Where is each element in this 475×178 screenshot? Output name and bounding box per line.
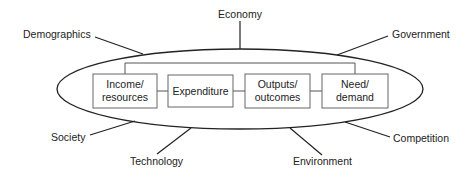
label-economy: Economy xyxy=(218,8,263,20)
label-competition: Competition xyxy=(393,132,449,144)
leader-society xyxy=(90,121,135,135)
box-need-line1: Need/ xyxy=(341,78,369,90)
box-need-demand: Need/ demand xyxy=(322,74,388,108)
label-society: Society xyxy=(51,131,86,143)
label-environment: Environment xyxy=(293,155,352,167)
box-income-line2: resources xyxy=(102,91,148,103)
box-expenditure: Expenditure xyxy=(168,75,233,107)
label-technology: Technology xyxy=(130,155,184,167)
box-need-line2: demand xyxy=(336,91,374,103)
label-government: Government xyxy=(392,28,450,40)
leader-technology xyxy=(157,128,191,154)
feedback-connector xyxy=(125,63,355,74)
leader-environment xyxy=(290,128,322,155)
box-outputs-outcomes: Outputs/ outcomes xyxy=(245,74,310,108)
box-expenditure-label: Expenditure xyxy=(172,85,228,97)
box-income-line1: Income/ xyxy=(106,78,143,90)
box-outputs-line1: Outputs/ xyxy=(258,78,298,90)
label-demographics: Demographics xyxy=(23,28,91,40)
leader-government xyxy=(337,36,388,55)
leader-competition xyxy=(345,122,390,137)
box-outputs-line2: outcomes xyxy=(255,91,301,103)
box-income-resources: Income/ resources xyxy=(93,74,157,108)
leader-demographics xyxy=(95,37,143,54)
environment-diagram: Income/ resources Expenditure Outputs/ o… xyxy=(0,0,475,178)
